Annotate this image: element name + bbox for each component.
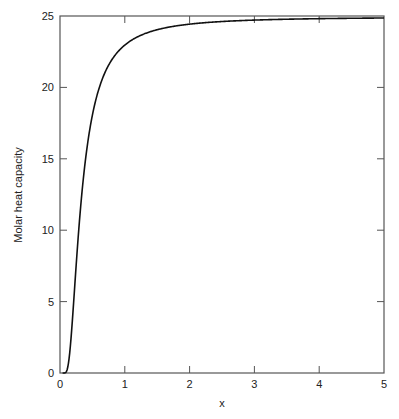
x-tick-label: 1 [122,378,128,390]
y-tick-label: 25 [42,10,54,22]
x-tick-label: 0 [57,378,63,390]
y-tick-label: 0 [48,367,54,379]
data-line [63,18,384,373]
y-axis-title: Molar heat capacity [12,147,24,243]
y-tick-label: 15 [42,153,54,165]
x-tick-label: 3 [251,378,257,390]
heat-capacity-chart: 0123450510152025 x Molar heat capacity [0,0,399,419]
x-tick-label: 4 [316,378,322,390]
x-tick-label: 5 [381,378,387,390]
y-tick-label: 5 [48,296,54,308]
y-tick-label: 10 [42,224,54,236]
x-axis-title: x [219,397,225,409]
tick-labels: 0123450510152025 [42,10,387,390]
plot-frame [60,16,384,373]
x-tick-label: 2 [187,378,193,390]
axis-ticks [60,16,384,373]
axes-box [60,16,384,373]
y-tick-label: 20 [42,81,54,93]
